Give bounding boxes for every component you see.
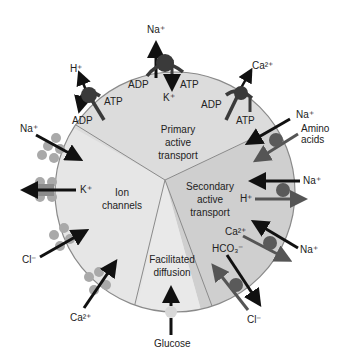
svg-text:transport: transport xyxy=(190,207,230,218)
svg-text:H⁺: H⁺ xyxy=(70,63,82,74)
svg-text:ADP: ADP xyxy=(72,115,93,126)
svg-text:channels: channels xyxy=(102,200,142,211)
svg-text:K⁺: K⁺ xyxy=(163,92,175,103)
svg-text:transport: transport xyxy=(158,150,198,161)
svg-text:ATP: ATP xyxy=(180,79,199,90)
carrier-icon xyxy=(276,183,290,197)
svg-text:Cl⁻: Cl⁻ xyxy=(247,314,261,325)
svg-text:active: active xyxy=(165,137,192,148)
pump-icon xyxy=(234,86,248,100)
svg-text:ADP: ADP xyxy=(128,79,149,90)
svg-text:Na⁺: Na⁺ xyxy=(296,109,314,120)
carrier-icon xyxy=(269,133,283,147)
svg-text:diffusion: diffusion xyxy=(153,267,190,278)
svg-text:acids: acids xyxy=(301,134,324,145)
svg-text:Glucose: Glucose xyxy=(154,338,191,349)
svg-text:Na⁺: Na⁺ xyxy=(20,123,38,134)
svg-text:Facilitated: Facilitated xyxy=(149,254,195,265)
svg-text:Na⁺: Na⁺ xyxy=(303,175,321,186)
svg-text:HCO₃⁻: HCO₃⁻ xyxy=(212,243,243,254)
ca-out-arrow xyxy=(241,72,250,88)
svg-text:Amino: Amino xyxy=(301,123,330,134)
svg-text:Ca²⁺: Ca²⁺ xyxy=(225,226,246,237)
svg-text:ATP: ATP xyxy=(236,115,255,126)
svg-text:Na⁺: Na⁺ xyxy=(300,244,318,255)
pump-icon xyxy=(156,54,174,72)
svg-text:Ca²⁺: Ca²⁺ xyxy=(252,60,273,71)
svg-text:Ca²⁺: Ca²⁺ xyxy=(70,312,91,323)
svg-text:Secondary: Secondary xyxy=(186,181,234,192)
pump-icon xyxy=(81,87,97,103)
svg-text:Na⁺: Na⁺ xyxy=(147,24,165,35)
svg-text:H⁺: H⁺ xyxy=(240,193,252,204)
svg-text:K⁺: K⁺ xyxy=(80,184,92,195)
svg-text:ATP: ATP xyxy=(104,96,123,107)
carrier-icon xyxy=(165,306,177,318)
membrane-transport-diagram: Primary active transport Secondary activ… xyxy=(0,0,342,361)
carrier-icon xyxy=(263,236,277,250)
svg-text:Primary: Primary xyxy=(161,124,195,135)
svg-text:Ion: Ion xyxy=(115,187,129,198)
svg-text:Cl⁻: Cl⁻ xyxy=(22,254,36,265)
carrier-icon xyxy=(229,278,243,292)
svg-text:active: active xyxy=(197,194,224,205)
svg-text:ADP: ADP xyxy=(201,99,222,110)
